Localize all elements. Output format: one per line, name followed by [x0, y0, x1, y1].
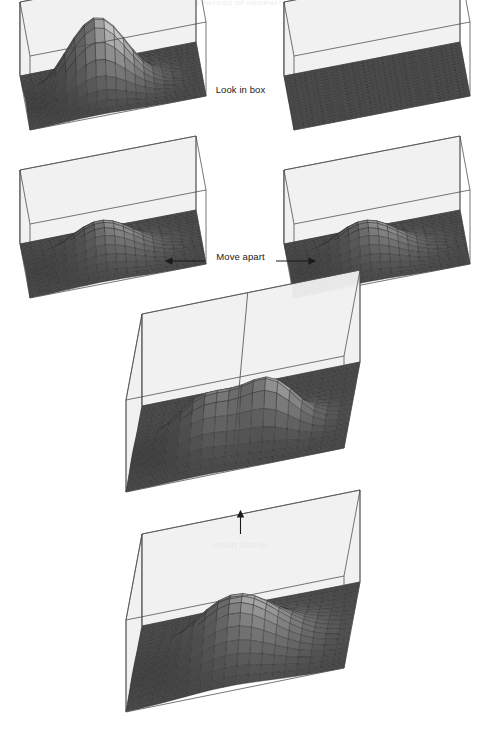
surface-plot-top-right — [272, 18, 481, 158]
caption-move-apart: Move apart — [216, 251, 265, 262]
panel-top-right — [272, 18, 481, 158]
surface-plot-top-left — [8, 18, 218, 158]
figure-canvas: THE PHYSICS OF INFORMATION Look in box M… — [0, 0, 481, 753]
panel-bottom-single-peak — [108, 572, 378, 750]
surface-plot-bottom — [108, 572, 378, 750]
panel-top-left — [8, 18, 218, 158]
caption-look-in-box: Look in box — [216, 84, 266, 95]
